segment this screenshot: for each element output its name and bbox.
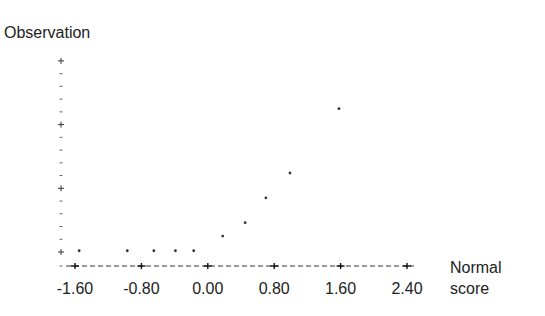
x-major-tick: [204, 263, 212, 269]
x-axis-label-line1: Normal: [450, 259, 502, 276]
x-major-tick: [137, 263, 145, 269]
x-major-tick: [71, 263, 79, 269]
y-major-tick: [58, 122, 64, 128]
x-tick-label: -0.80: [123, 280, 160, 297]
data-point: [244, 221, 247, 224]
data-point: [174, 249, 177, 252]
x-tick-label: 0.80: [259, 280, 290, 297]
normal-probability-plot: Observation -1.60-0.800.000.801.602.40 N…: [0, 0, 545, 316]
x-major-tick: [403, 263, 411, 269]
data-point: [78, 249, 81, 252]
x-major-tick: [337, 263, 345, 269]
x-tick-labels: -1.60-0.800.000.801.602.40: [57, 280, 423, 297]
x-tick-label: 2.40: [391, 280, 422, 297]
data-point: [289, 172, 292, 175]
y-axis: [58, 58, 64, 266]
data-point: [265, 196, 268, 199]
y-major-tick: [58, 249, 64, 255]
x-tick-label: -1.60: [57, 280, 94, 297]
data-point: [192, 249, 195, 252]
y-axis-label: Observation: [4, 24, 90, 41]
y-major-tick: [58, 58, 64, 64]
data-points: [78, 107, 341, 252]
x-axis: [66, 263, 414, 269]
x-tick-label: 0.00: [192, 280, 223, 297]
data-point: [126, 249, 129, 252]
x-major-tick: [270, 263, 278, 269]
x-tick-label: 1.60: [325, 280, 356, 297]
data-point: [221, 235, 224, 238]
x-axis-label-line2: score: [450, 280, 489, 297]
y-major-tick: [58, 185, 64, 191]
data-point: [152, 249, 155, 252]
data-point: [338, 107, 341, 110]
